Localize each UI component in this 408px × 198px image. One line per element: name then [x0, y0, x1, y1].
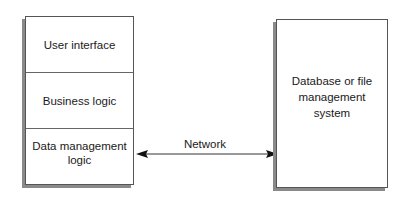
- data-management-logic-layer: Data management logic: [26, 128, 133, 185]
- data-management-logic-label: Data management logic: [30, 139, 129, 167]
- business-logic-layer: Business logic: [26, 72, 133, 128]
- network-double-arrow-icon: [136, 148, 278, 160]
- business-logic-label: Business logic: [43, 94, 117, 108]
- database-server-box: Database or file management system: [276, 19, 388, 188]
- user-interface-layer: User interface: [26, 17, 133, 72]
- database-server-label: Database or file management system: [286, 73, 378, 121]
- user-interface-label: User interface: [44, 38, 116, 52]
- client-stack-box: User interface Business logic Data manag…: [25, 16, 134, 185]
